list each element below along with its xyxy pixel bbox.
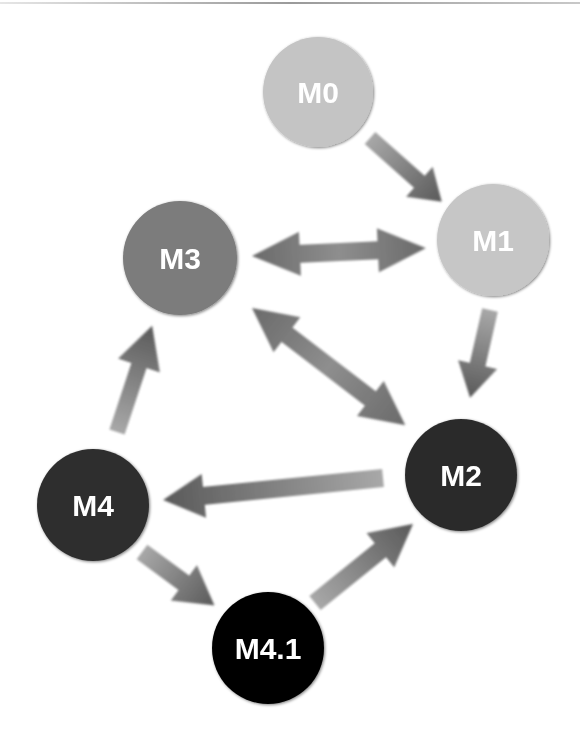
- arrow-m0-to-m1: [357, 123, 455, 217]
- node-m0-label: M0: [297, 76, 339, 109]
- node-m3: M3: [123, 201, 237, 315]
- arrow-m4-to-m4-1: [129, 534, 228, 623]
- node-m4-1-label: M4.1: [235, 632, 302, 665]
- arrow-m3-m2-bidirectional: [239, 291, 419, 443]
- node-m0: M0: [263, 37, 373, 147]
- arrow-m2-to-m4: [161, 456, 385, 522]
- arrow-m4-to-m3: [96, 319, 173, 439]
- node-m1-label: M1: [472, 224, 514, 257]
- node-m3-label: M3: [159, 242, 201, 275]
- node-m2: M2: [405, 419, 517, 531]
- node-m1: M1: [437, 184, 549, 296]
- state-diagram: M0 M1 M3 M2 M4 M4.1: [0, 0, 580, 739]
- arrow-m3-m1-bidirectional: [251, 226, 427, 278]
- arrow-m4-1-to-m2: [301, 507, 427, 620]
- node-m4-label: M4: [72, 489, 114, 522]
- node-m2-label: M2: [440, 459, 482, 492]
- node-m4-1: M4.1: [212, 592, 324, 704]
- arrow-m1-to-m2: [451, 306, 510, 403]
- node-m4: M4: [37, 449, 149, 561]
